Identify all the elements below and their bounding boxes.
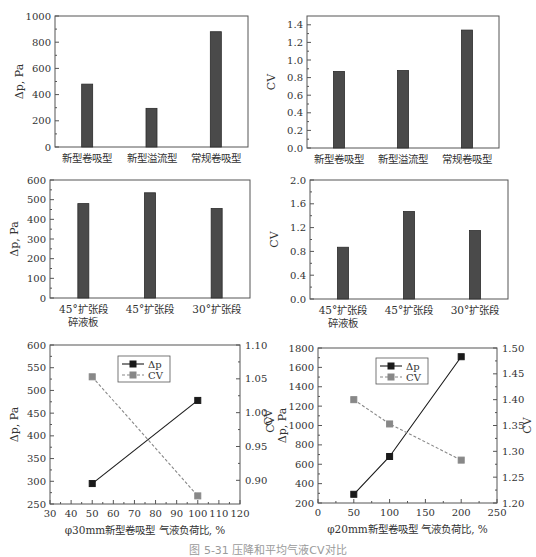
series-line-delta-p	[92, 400, 198, 483]
x-tick-label: 150	[416, 507, 435, 518]
x-category-label: 45°扩张段	[385, 304, 435, 316]
bar	[145, 193, 156, 298]
series-line-cv	[92, 377, 198, 496]
x-category-label: 新型溢流型	[378, 153, 428, 165]
x-tick-label: 40	[65, 508, 78, 519]
figure-caption: 图 5-31 压降和平均气液CV对比	[0, 541, 536, 557]
legend: ΔpCV	[376, 358, 428, 384]
y2-tick-label: 1.10	[245, 340, 267, 351]
legend-label: CV	[148, 370, 164, 381]
y-axis-extra-label: CV	[262, 408, 275, 425]
y2-tick-label: 1.50	[502, 343, 524, 354]
y-tick-label: 600	[27, 340, 46, 351]
y-tick-label: 1600	[289, 362, 314, 373]
bar	[398, 71, 409, 148]
y-axis-label: Δp, Pa	[8, 221, 21, 257]
y-tick-label: 100	[27, 273, 46, 284]
y-tick-label: 350	[27, 453, 46, 464]
chart-c3-delta-p-bar: 0100200300400500600Δp, Pa45°扩张段碎液板45°扩张段…	[8, 175, 250, 329]
legend: ΔpCV	[118, 356, 170, 382]
x-category-label: 30°扩张段	[192, 303, 242, 315]
x-axis-label: φ30mm新型卷吸型 气液负荷比, %	[65, 524, 226, 536]
y-tick-label: 2.0	[290, 175, 306, 186]
bar	[210, 32, 221, 147]
y-tick-label: 500	[27, 385, 46, 396]
y2-tick-label: 1.45	[502, 368, 524, 379]
chart-c1-delta-p-bar: 02004006008001000Δp, Pa新型卷吸型新型溢流型常规卷吸型	[13, 11, 248, 165]
y-tick-label: 600	[32, 63, 51, 74]
x-category-label: 30°扩张段	[451, 304, 501, 316]
chart-c2-cv-bar: 0.00.20.40.60.81.01.21.4CV新型卷吸型新型溢流型常规卷吸…	[265, 16, 499, 165]
y-tick-label: 200	[27, 253, 46, 264]
bar	[146, 108, 157, 147]
y-tick-label: 500	[27, 194, 46, 205]
chart-c5-line-30mm: 250300350400450500550600Δp, Pa3040506070…	[8, 340, 277, 537]
y-tick-label: 1.2	[287, 37, 303, 48]
y-tick-label: 0.6	[287, 90, 303, 101]
y-tick-label: 200	[32, 115, 51, 126]
y-tick-label: 1400	[289, 381, 314, 392]
data-point-marker	[89, 481, 95, 487]
x-tick-label: 100	[380, 507, 399, 518]
x-category-label: 常规卷吸型	[191, 152, 241, 164]
data-point-marker	[387, 421, 393, 427]
x-tick-label: 60	[107, 508, 120, 519]
x-category-label: 45°扩张段	[59, 303, 109, 315]
y-tick-label: 0.2	[287, 125, 303, 136]
y-tick-label: 1000	[289, 420, 314, 431]
y-tick-label: 1.0	[287, 55, 303, 66]
bar	[334, 71, 345, 148]
y-tick-label: 1000	[26, 11, 51, 22]
y-tick-label: 800	[295, 439, 314, 450]
x-tick-label: 70	[128, 508, 141, 519]
y-tick-label: 600	[27, 175, 46, 186]
chart-c6-line-20mm: 20040060080010001200140016001800Δp, Pa05…	[262, 343, 534, 536]
x-category-label: 碎液板	[328, 317, 359, 329]
y-tick-label: 0.4	[290, 270, 306, 281]
y-axis-label: Δp, Pa	[276, 407, 289, 443]
x-tick-label: 250	[487, 507, 506, 518]
x-category-label: 新型卷吸型	[62, 152, 112, 164]
y-tick-label: 0.0	[287, 143, 303, 154]
x-tick-label: 50	[86, 508, 99, 519]
y-tick-label: 800	[32, 37, 51, 48]
x-tick-label: 120	[230, 508, 249, 519]
bar	[82, 84, 93, 147]
y-tick-label: 400	[32, 89, 51, 100]
bar	[338, 247, 349, 299]
bar	[211, 209, 222, 298]
y-tick-label: 1.4	[287, 19, 303, 30]
x-category-label: 45°扩张段	[126, 303, 176, 315]
legend-marker	[130, 372, 136, 378]
y-tick-label: 200	[295, 498, 314, 509]
y-tick-label: 0.8	[290, 246, 306, 257]
y-axis-label: Δp, Pa	[13, 63, 26, 99]
y-tick-label: 550	[27, 362, 46, 373]
x-tick-label: 0	[315, 507, 321, 518]
series-line-cv	[354, 400, 461, 460]
y-tick-label: 1800	[289, 343, 314, 354]
y-tick-label: 600	[295, 459, 314, 470]
data-point-marker	[351, 491, 357, 497]
data-point-marker	[195, 493, 201, 499]
y-tick-label: 0.4	[287, 107, 303, 118]
x-tick-label: 90	[170, 508, 183, 519]
y-axis-label: CV	[265, 73, 278, 90]
x-tick-label: 30	[44, 508, 57, 519]
y-tick-label: 400	[295, 478, 314, 489]
x-tick-label: 50	[347, 507, 360, 518]
legend-marker	[388, 363, 394, 369]
legend-label: CV	[406, 372, 422, 383]
bar	[78, 204, 89, 298]
legend-label: Δp	[406, 361, 420, 372]
y-tick-label: 400	[27, 214, 46, 225]
x-axis-label: φ20mm新型卷吸型 气液负荷比, %	[327, 523, 488, 535]
y-axis-label: Δp, Pa	[8, 406, 21, 442]
legend-marker	[388, 374, 394, 380]
y-tick-label: 1200	[289, 401, 314, 412]
y2-tick-label: 1.30	[502, 446, 524, 457]
bar	[404, 212, 415, 299]
y-axis-label: CV	[268, 230, 281, 247]
y2-tick-label: 0.95	[245, 441, 267, 452]
